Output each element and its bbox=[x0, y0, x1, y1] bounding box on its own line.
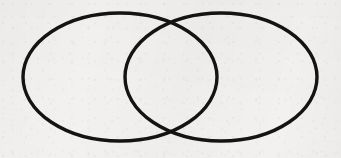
overlapping-ellipses-figure bbox=[0, 0, 341, 158]
figure-canvas bbox=[0, 0, 341, 158]
left-ellipse bbox=[23, 13, 217, 141]
right-ellipse bbox=[125, 13, 317, 141]
